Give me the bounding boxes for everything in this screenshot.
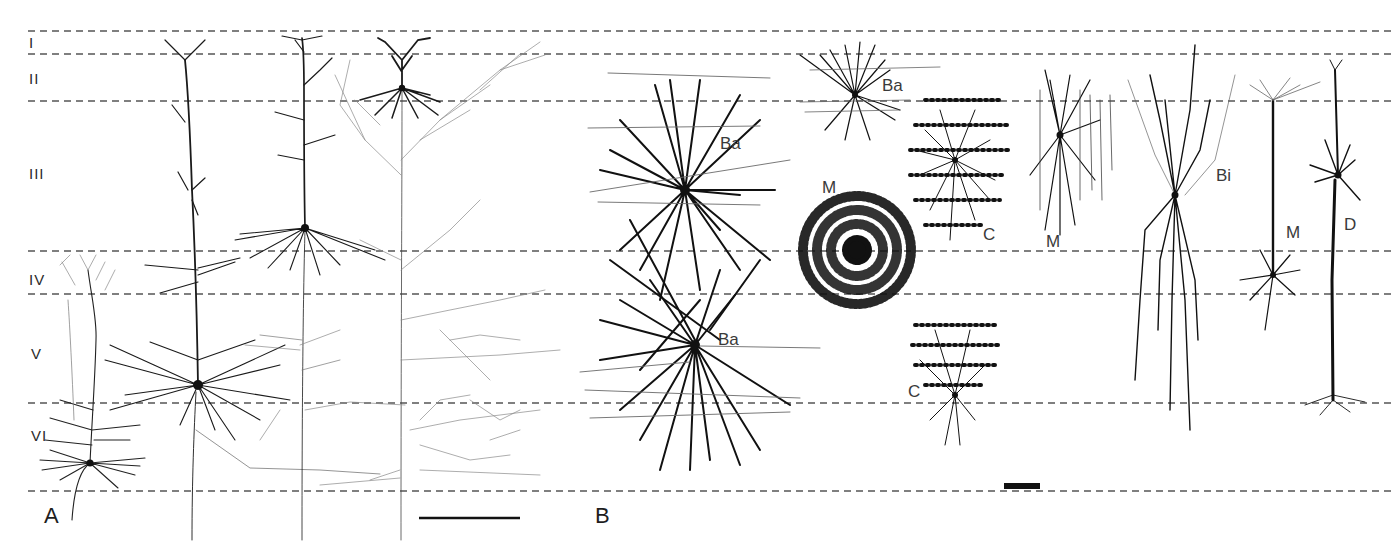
panel-label-a: A	[44, 505, 59, 527]
neuron-drawing-canvas	[0, 0, 1393, 556]
basket-axons	[580, 73, 820, 418]
layer-v-pyramidal-neuron	[105, 40, 380, 540]
soma	[680, 185, 690, 195]
soma	[952, 157, 958, 163]
layer-iii-pyramidal-neuron	[235, 36, 385, 540]
cell-label-martinotti: M	[1046, 233, 1060, 250]
soma	[1335, 172, 1342, 179]
cell-label-martinotti: M	[1286, 224, 1300, 241]
cell-label-basket: Ba	[718, 331, 739, 348]
double-bouquet-cell	[1305, 60, 1365, 415]
cell-label-chandelier: C	[908, 383, 920, 400]
scale-bar-b	[1004, 483, 1040, 489]
panel-label-b: B	[595, 505, 610, 527]
cell-label-basket: Ba	[720, 135, 741, 152]
cortical-neuron-figure: I II III IV V VI A B Ba Ba Ba M C M Bi M…	[0, 0, 1393, 556]
cell-label-bipolar: Bi	[1216, 167, 1231, 184]
soma	[399, 85, 405, 91]
basket-cell-small	[800, 42, 940, 140]
panel-b-neurons	[580, 42, 1365, 470]
panel-a-neurons	[40, 36, 560, 540]
soma	[301, 224, 309, 232]
cell-label-neurogliaform: M	[822, 179, 836, 196]
layer-label-i: I	[29, 35, 34, 50]
soma	[1172, 192, 1179, 199]
bipolar-cell	[1128, 45, 1235, 430]
cell-label-double-bouquet: D	[1344, 216, 1356, 233]
layer-label-iii: III	[29, 166, 45, 181]
martinotti-cell-deep	[1240, 78, 1320, 330]
soma	[852, 92, 858, 98]
soma	[1270, 272, 1276, 278]
martinotti-cell-layer-iii	[1030, 70, 1112, 235]
soma	[193, 380, 203, 390]
layer-boundaries	[28, 31, 1393, 491]
soma	[690, 340, 700, 350]
layer-label-ii: II	[29, 71, 39, 86]
layer-label-vi: VI	[31, 428, 47, 443]
soma	[86, 459, 93, 466]
soma	[1057, 132, 1064, 139]
neurogliaform-cell	[803, 196, 911, 304]
layer-vi-neuron	[40, 255, 145, 520]
layer-label-iv: IV	[29, 272, 45, 287]
soma	[952, 392, 958, 398]
cell-label-chandelier: C	[983, 226, 995, 243]
chandelier-cell-upper	[910, 100, 1010, 240]
basket-cell-lower	[600, 270, 790, 470]
layer-ii-neuron	[360, 38, 440, 540]
chandelier-cell-lower	[912, 325, 1000, 445]
layer-label-v: V	[31, 346, 42, 361]
cell-label-basket: Ba	[882, 77, 903, 94]
